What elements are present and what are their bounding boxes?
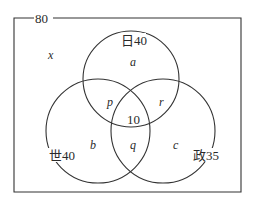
set-label-world-history: 世40 (49, 148, 75, 163)
region-only-top: a (130, 55, 136, 69)
region-only-left: b (90, 138, 96, 152)
region-outside: x (47, 48, 54, 62)
region-left-right: q (130, 138, 136, 152)
circle-world-history (46, 79, 150, 183)
region-top-left: p (106, 95, 113, 109)
region-center: 10 (127, 112, 140, 127)
region-top-right: r (159, 95, 164, 109)
universe-label: 80 (35, 11, 48, 26)
region-only-right: c (173, 138, 179, 152)
venn-diagram: 80 日40 世40 政35 x a b c p r q 10 (0, 0, 257, 208)
set-label-japanese-history: 日40 (121, 33, 147, 48)
set-label-politics: 政35 (193, 148, 219, 163)
